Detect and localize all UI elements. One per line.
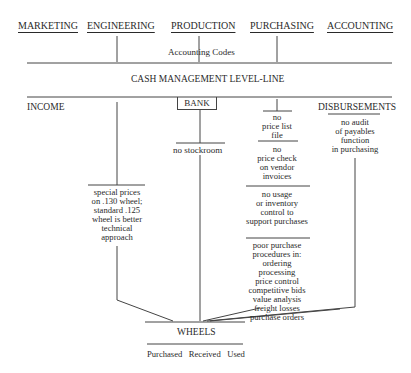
purchasing-note-price-check: no price check on vendor invoices <box>247 145 307 181</box>
dept-purchasing: PURCHASING <box>250 20 314 31</box>
purchasing-note-price-list: no price list file <box>247 113 307 140</box>
wheels-subtitle: Purchased Received Used <box>147 350 245 359</box>
income-label: INCOME <box>27 103 64 112</box>
bank-box: BANK <box>177 97 217 110</box>
disbursements-label: DISBURSEMENTS <box>318 103 396 112</box>
wheels-title: WHEELS <box>177 328 216 337</box>
accounting-codes-label: Accounting Codes <box>168 48 235 57</box>
cash-management-level-line: CASH MANAGEMENT LEVEL-LINE <box>131 75 284 84</box>
bank-note: no stockroom <box>173 146 222 155</box>
dept-marketing: MARKETING <box>18 20 78 31</box>
purchasing-note-inventory: no usage or inventory control to support… <box>242 190 312 226</box>
purchasing-note-procedures: poor purchase procedures in: ordering pr… <box>242 241 312 322</box>
dept-production: PRODUCTION <box>171 20 235 31</box>
disbursements-note: no audit of payables function in purchas… <box>325 118 385 154</box>
engineering-note: special prices on .130 wheel; standard .… <box>87 188 147 242</box>
dept-accounting: ACCOUNTING <box>327 20 393 31</box>
dept-engineering: ENGINEERING <box>87 20 155 31</box>
